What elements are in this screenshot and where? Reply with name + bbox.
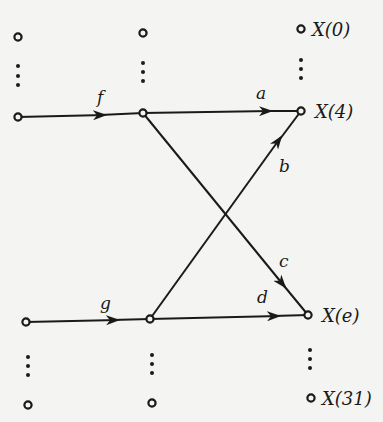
node-x0 — [297, 25, 304, 32]
node-xe — [304, 311, 311, 318]
branch-a — [143, 111, 301, 113]
output-label-x0: X(0) — [310, 19, 350, 40]
label-c: c — [279, 251, 289, 271]
output-label-xe: X(e) — [320, 305, 360, 326]
ellipsis-dots — [16, 58, 312, 377]
node-col2-rowe — [146, 315, 153, 322]
node-col1-top — [14, 33, 21, 40]
node-col2-row4 — [139, 109, 146, 116]
label-d: d — [257, 287, 268, 307]
branch-f — [18, 113, 143, 117]
branch-b — [150, 111, 301, 319]
butterfly-diagram: f a b c g d X(0) X(4) X(e) X(31) — [0, 0, 383, 422]
node-col2-bottom — [148, 399, 155, 406]
branch-d — [150, 315, 308, 319]
node-x31 — [307, 394, 314, 401]
node-col1-row4 — [14, 113, 21, 120]
label-b: b — [279, 156, 290, 176]
label-f: f — [95, 87, 106, 107]
label-a: a — [256, 83, 266, 103]
node-col1-bottom — [24, 401, 31, 408]
label-g: g — [100, 293, 111, 313]
node-col2-top — [139, 29, 146, 36]
branch-g — [26, 319, 150, 322]
output-label-x4: X(4) — [313, 101, 353, 122]
node-col1-rowe — [22, 318, 29, 325]
node-x4 — [297, 107, 304, 114]
output-label-x31: X(31) — [320, 388, 372, 409]
